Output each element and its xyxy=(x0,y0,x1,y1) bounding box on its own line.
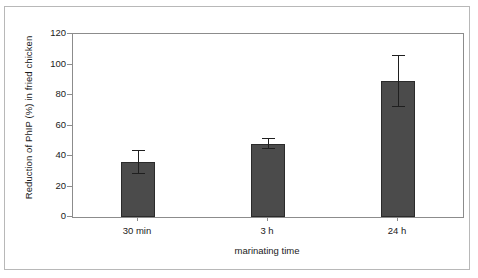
y-tick-label-120: 120 xyxy=(26,28,66,38)
y-tick-label-100: 100 xyxy=(26,59,66,69)
error-bar-cap-upper-30-min xyxy=(132,150,145,151)
y-tick-label-80: 80 xyxy=(26,89,66,99)
bar-3-h[interactable] xyxy=(251,144,285,217)
error-bar-stem-24-h xyxy=(398,55,399,105)
error-bar-cap-lower-24-h xyxy=(392,106,405,107)
y-tick-label-0: 0 xyxy=(26,211,66,221)
x-tick-label-3-h: 3 h xyxy=(207,225,327,236)
y-tick-label-60: 60 xyxy=(26,120,66,130)
error-bar-cap-lower-30-min xyxy=(132,173,145,174)
x-tick-label-30-min: 30 min xyxy=(77,225,197,236)
bar-chart: Reduction of PhIP (%) in fried chicken 1… xyxy=(0,0,478,278)
error-bar-cap-upper-3-h xyxy=(262,138,275,139)
x-tick-mark-3-h xyxy=(267,217,268,221)
error-bar-stem-3-h xyxy=(268,138,269,149)
error-bar-stem-30-min xyxy=(138,150,139,173)
error-bar-cap-upper-24-h xyxy=(392,55,405,56)
x-axis-title: marinating time xyxy=(72,245,462,256)
plot-area xyxy=(72,33,464,218)
x-tick-mark-24-h xyxy=(397,217,398,221)
y-tick-label-20: 20 xyxy=(26,181,66,191)
error-bar-cap-lower-3-h xyxy=(262,148,275,149)
x-tick-mark-30-min xyxy=(137,217,138,221)
y-tick-label-40: 40 xyxy=(26,150,66,160)
x-tick-label-24-h: 24 h xyxy=(337,225,457,236)
